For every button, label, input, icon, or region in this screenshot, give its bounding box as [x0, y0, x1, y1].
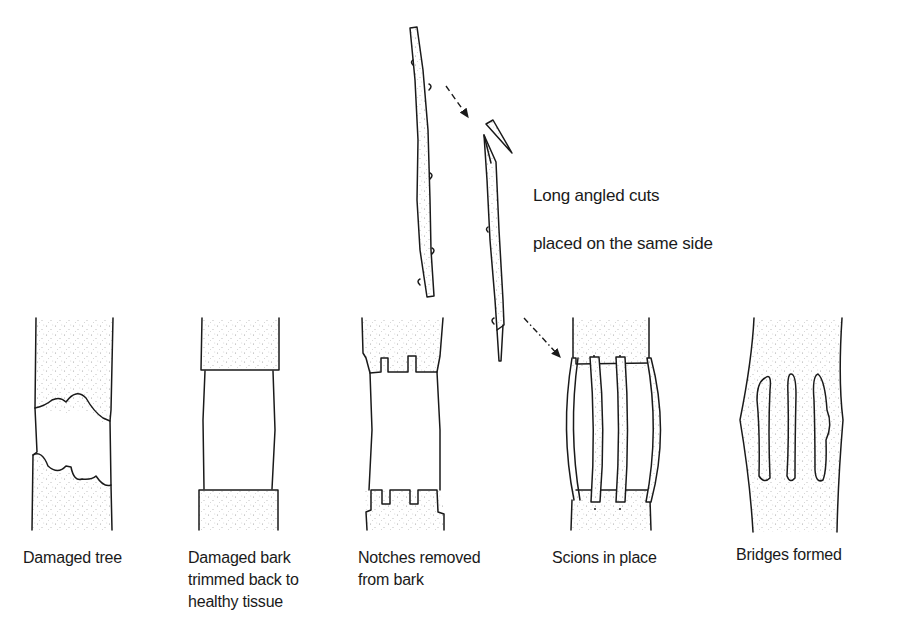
arrow-to-scions — [524, 318, 560, 357]
scion-stick-uncut — [410, 27, 434, 297]
scions-in-place-drawing — [566, 318, 660, 530]
annotation-line-2: placed on the same side — [533, 232, 713, 256]
trimmed-bark-drawing — [199, 318, 279, 530]
caption-scions: Scions in place — [552, 547, 657, 569]
damaged-tree-drawing — [32, 318, 113, 530]
scion-stick-cut — [484, 135, 504, 361]
caption-bridges: Bridges formed — [736, 544, 842, 566]
caption-trimmed: Damaged bark trimmed back to healthy tis… — [188, 547, 299, 613]
notches-drawing — [362, 318, 444, 530]
annotation-line-1: Long angled cuts — [533, 184, 713, 208]
arrow-to-cut — [446, 86, 468, 117]
bridges-formed-drawing — [740, 318, 843, 532]
caption-damaged-tree: Damaged tree — [23, 547, 122, 569]
caption-notches: Notches removed from bark — [358, 547, 480, 591]
annotation-long-angled-cuts: Long angled cuts placed on the same side — [533, 160, 713, 280]
